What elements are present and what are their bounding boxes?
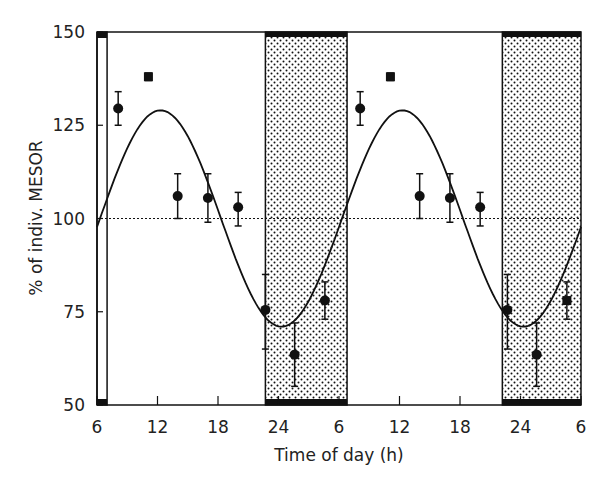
data-point (233, 192, 243, 226)
data-point (386, 72, 395, 81)
y-tick-label: 150 (53, 22, 85, 42)
circle-marker (203, 193, 213, 203)
data-point (475, 192, 485, 226)
square-marker (386, 72, 395, 81)
x-tick-label: 24 (268, 417, 290, 437)
x-tick-label: 18 (207, 417, 229, 437)
x-tick-label: 12 (389, 417, 411, 437)
dark-period-bottom-bar (502, 399, 581, 405)
circle-marker (532, 350, 542, 360)
dark-period-bottom-bar (265, 399, 347, 405)
x-tick-label: 18 (449, 417, 471, 437)
x-axis-label: Time of day (h) (273, 445, 404, 465)
circle-marker (113, 103, 123, 113)
data-point (173, 174, 183, 219)
data-point (415, 174, 425, 219)
square-marker (562, 296, 571, 305)
circle-marker (290, 350, 300, 360)
y-tick-label: 75 (63, 302, 85, 322)
circle-marker (355, 103, 365, 113)
circle-marker (173, 191, 183, 201)
circle-marker (320, 296, 330, 306)
chart: 5075100125150612182461218246 % of indiv.… (0, 0, 601, 482)
data-point (355, 92, 365, 126)
light-edge-top-bar (97, 32, 107, 38)
x-tick-label: 6 (334, 417, 345, 437)
data-point (203, 174, 213, 222)
y-tick-label: 125 (53, 115, 85, 135)
x-tick-label: 6 (92, 417, 103, 437)
circadian-rhythm-plot: 5075100125150612182461218246 % of indiv.… (0, 0, 601, 482)
data-point (445, 174, 455, 222)
square-marker (144, 72, 153, 81)
light-edge-bottom-bar (97, 399, 107, 405)
x-tick-label: 12 (147, 417, 169, 437)
circle-marker (445, 193, 455, 203)
circle-marker (475, 202, 485, 212)
data-point (113, 92, 123, 126)
y-tick-label: 50 (63, 395, 85, 415)
circle-marker (415, 191, 425, 201)
x-tick-label: 6 (576, 417, 587, 437)
y-tick-label: 100 (53, 209, 85, 229)
x-tick-label: 24 (510, 417, 532, 437)
circle-marker (502, 305, 512, 315)
data-point (144, 72, 153, 81)
y-axis-label: % of indiv. MESOR (26, 140, 46, 295)
circle-marker (233, 202, 243, 212)
circle-marker (260, 305, 270, 315)
